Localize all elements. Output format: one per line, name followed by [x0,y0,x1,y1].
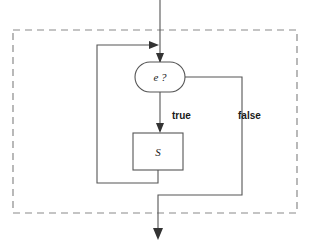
false-edge-label: false [238,110,261,121]
body-node-label: S [155,146,161,158]
diagram-canvas: e ? true S false [0,0,310,245]
condition-node-label: e ? [153,71,167,83]
true-edge-label: true [172,110,191,121]
back-edge-arrowhead [149,41,159,49]
flowchart-svg: e ? true S false [0,0,310,245]
true-edge-arrowhead [156,123,164,133]
false-edge-arrowhead [153,228,163,240]
loop-region-dashed-border [13,30,297,213]
